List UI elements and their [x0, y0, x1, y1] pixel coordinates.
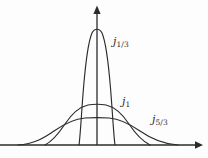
- curve-label-j-five-thirds: j5/3: [152, 114, 168, 126]
- plot-canvas: [0, 0, 208, 158]
- spectral-emissivity-figure: j1/3 j1 j5/3: [0, 0, 208, 158]
- x-axis-arrow-icon: [195, 141, 203, 148]
- curve-label-j-one: j1: [122, 96, 130, 108]
- curve-label-j-one-third-subscript: 1/3: [116, 40, 128, 49]
- y-axis-arrow-icon: [93, 6, 100, 15]
- curve-label-j-one-subscript: 1: [125, 100, 130, 109]
- curve-label-j-five-thirds-subscript: 5/3: [155, 118, 167, 127]
- curve-label-j-one-third: j1/3: [113, 36, 129, 48]
